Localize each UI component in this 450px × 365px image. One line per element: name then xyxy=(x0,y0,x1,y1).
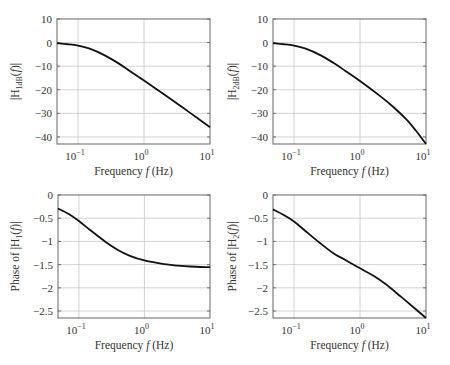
xtick-label: 10−1 xyxy=(66,322,86,336)
data-curve xyxy=(58,208,210,267)
axes-frame xyxy=(273,19,426,144)
ytick-label: −1.5 xyxy=(248,259,268,271)
xtick-label: 101 xyxy=(416,322,431,336)
xtick-label: 10−1 xyxy=(65,148,85,162)
ytick-label: −30 xyxy=(35,107,53,119)
xtick-exponent: 0 xyxy=(145,322,149,331)
plot-magnitude-h2: 100−10−20−30−4010−1100101Frequency f (Hz… xyxy=(226,13,431,178)
ytick-label: 0 xyxy=(263,37,269,49)
x-axis-label: Frequency f (Hz) xyxy=(310,165,389,178)
xtick-exponent: 0 xyxy=(361,322,365,331)
xtick-label: 100 xyxy=(134,322,149,336)
ytick-label: −20 xyxy=(251,84,269,96)
ytick-label: −10 xyxy=(35,60,53,72)
xtick-label: 101 xyxy=(200,322,215,336)
data-curve xyxy=(273,209,426,318)
xtick-exponent: −1 xyxy=(292,148,301,157)
axes-frame xyxy=(57,19,210,144)
xtick-exponent: 1 xyxy=(211,322,215,331)
xtick-exponent: 1 xyxy=(211,148,215,157)
xtick-exponent: 0 xyxy=(145,148,149,157)
ytick-label: 0 xyxy=(263,189,269,201)
ytick-label: −1 xyxy=(41,235,53,247)
x-axis-label: Frequency f (Hz) xyxy=(94,165,173,178)
figure: 100−10−20−30−4010−1100101Frequency f (Hz… xyxy=(0,0,450,365)
ytick-label: −20 xyxy=(35,84,53,96)
y-axis-label: |H1dB(f)| xyxy=(9,63,24,100)
ytick-label: −2 xyxy=(256,282,268,294)
ytick-label: 10 xyxy=(257,13,269,25)
plot-phase-h2: 0−0.5−1−1.5−2−2.510−1100101Frequency f (… xyxy=(226,189,431,352)
xtick-label: 10−1 xyxy=(281,148,301,162)
xtick-label: 100 xyxy=(134,148,149,162)
xtick-exponent: −1 xyxy=(77,322,86,331)
ytick-label: −2.5 xyxy=(33,305,53,317)
y-axis-label: Phase of |H1(f)| xyxy=(9,222,24,292)
xtick-exponent: −1 xyxy=(292,322,301,331)
xtick-label: 101 xyxy=(200,148,215,162)
plot-phase-h1: 0−0.5−1−1.5−2−2.510−1100101Frequency f (… xyxy=(9,189,215,352)
ytick-label: 0 xyxy=(47,37,53,49)
ytick-label: 0 xyxy=(48,189,54,201)
ytick-label: −30 xyxy=(251,107,269,119)
x-axis-label: Frequency f (Hz) xyxy=(95,339,174,352)
xtick-label: 10−1 xyxy=(281,322,301,336)
ytick-label: −40 xyxy=(251,131,269,143)
xtick-label: 101 xyxy=(416,148,431,162)
ytick-label: −0.5 xyxy=(248,212,268,224)
xtick-exponent: 0 xyxy=(361,148,365,157)
ytick-label: −40 xyxy=(35,131,53,143)
xtick-label: 100 xyxy=(350,148,365,162)
y-axis-label: Phase of |H2(f)| xyxy=(226,222,241,292)
ytick-label: −2.5 xyxy=(248,305,268,317)
data-curve xyxy=(57,43,210,127)
ytick-label: −1.5 xyxy=(33,259,53,271)
xtick-exponent: 1 xyxy=(427,322,431,331)
ytick-label: −0.5 xyxy=(33,212,53,224)
ytick-label: −2 xyxy=(41,282,53,294)
plot-magnitude-h1: 100−10−20−30−4010−1100101Frequency f (Hz… xyxy=(9,13,215,178)
ytick-label: −10 xyxy=(251,60,269,72)
data-curve xyxy=(273,43,426,144)
xtick-exponent: −1 xyxy=(76,148,85,157)
xtick-exponent: 1 xyxy=(427,148,431,157)
ytick-label: 10 xyxy=(41,13,53,25)
xtick-label: 100 xyxy=(350,322,365,336)
x-axis-label: Frequency f (Hz) xyxy=(310,339,389,352)
y-axis-label: |H2dB(f)| xyxy=(226,63,241,100)
ytick-label: −1 xyxy=(256,235,268,247)
